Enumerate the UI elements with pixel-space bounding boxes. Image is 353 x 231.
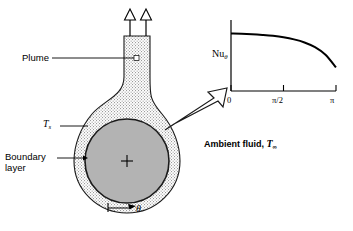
- ambient-fluid-label-text: Ambient fluid,: [204, 139, 267, 149]
- chart-x-ticks: [231, 85, 336, 91]
- ambient-temperature-subscript: ∞: [273, 143, 278, 150]
- figure-canvas: [0, 0, 353, 231]
- boundary-layer-label: Boundary layer: [5, 152, 46, 173]
- chart-y-axis-label-text: Nu: [212, 48, 224, 59]
- plume-label: Plume: [22, 53, 49, 63]
- block-arrow-icon: [165, 88, 227, 130]
- chart-axes: [231, 20, 336, 91]
- boundary-layer-label-line2: layer: [5, 163, 46, 174]
- up-arrow-icon-right: [141, 9, 152, 36]
- boundary-layer-leader-line: [57, 156, 88, 161]
- boundary-layer-label-line1: Boundary: [5, 152, 46, 163]
- up-arrow-icon-left: [125, 9, 136, 36]
- chart-y-axis-label-subscript: θ: [224, 53, 227, 60]
- chart-y-axis-label: Nuθ: [212, 49, 228, 61]
- surface-temperature-subscript: s: [49, 123, 52, 130]
- chart-xtick-label-pi: π: [330, 95, 334, 105]
- surface-temperature-label: Ts: [43, 119, 51, 131]
- chart-xtick-label-half-pi: π/2: [272, 95, 283, 105]
- chart-xtick-label-0: 0: [227, 95, 231, 105]
- figure-root: Plume Ts Boundary layer θ Nuθ 0 π/2 π Am…: [0, 0, 353, 231]
- theta-label: θ: [136, 204, 141, 214]
- nusselt-curve: [231, 34, 336, 68]
- ambient-fluid-label: Ambient fluid, T∞: [204, 139, 277, 150]
